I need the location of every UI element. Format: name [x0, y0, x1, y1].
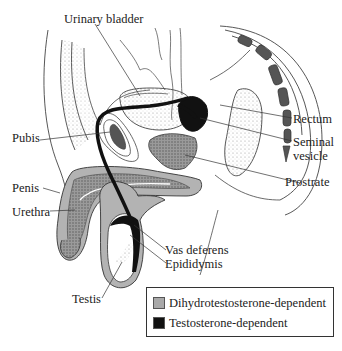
prostate-shape [149, 134, 197, 170]
legend-item-dht: Dihydrotestosterone-dependent [153, 296, 326, 310]
label-urethra: Urethra [12, 205, 50, 219]
legend-swatch-dht [153, 297, 165, 309]
legend-label-dht: Dihydrotestosterone-dependent [169, 296, 326, 311]
label-seminal-vesicle-line1: Seminal [293, 135, 334, 149]
legend-label-testosterone: Testosterone-dependent [169, 316, 288, 331]
label-urinary-bladder: Urinary bladder [64, 12, 143, 26]
legend-swatch-testosterone [153, 317, 165, 329]
label-testis: Testis [72, 292, 101, 306]
legend: Dihydrotestosterone-dependent Testostero… [146, 287, 334, 337]
label-epididymis: Epididymis [165, 257, 223, 271]
label-vas-deferens: Vas deferens [165, 243, 229, 257]
label-pubis: Pubis [12, 131, 40, 145]
label-prostrate: Prostrate [285, 175, 329, 189]
legend-item-testosterone: Testosterone-dependent [153, 316, 288, 330]
label-seminal-vesicle-line2: vesicle [293, 149, 328, 163]
label-rectum: Rectum [293, 112, 332, 126]
label-penis: Penis [12, 181, 39, 195]
anatomy-diagram: Urinary bladder Rectum Seminal vesicle P… [0, 0, 342, 351]
